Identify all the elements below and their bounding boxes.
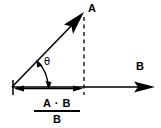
angle-theta-label: θ [44,57,50,67]
fraction-numerator: A · B [27,97,87,109]
projection-magnitude-fraction: A · B B [27,97,87,125]
vector-b-label: B [136,61,144,72]
fraction-bar [34,110,80,112]
vector-projection-figure: A B θ A · B B [0,0,161,128]
vector-a-arrow [12,12,84,87]
fraction-denominator: B [27,113,87,125]
vector-a-label: A [88,3,96,14]
vector-a-shaft [12,23,74,87]
